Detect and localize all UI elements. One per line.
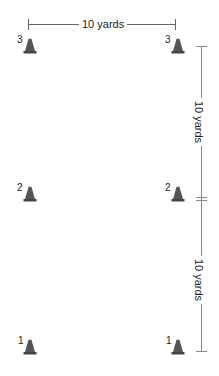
cone-icon [171, 186, 185, 202]
cone-icon [23, 38, 37, 54]
cone-icon [23, 339, 37, 355]
cone-icon [171, 38, 185, 54]
cone-number-label: 2 [17, 183, 23, 193]
cone-number-label: 2 [165, 183, 171, 193]
vertical-distance-label-lower: 10 yards [193, 256, 205, 304]
cone-icon [171, 339, 185, 355]
cone-drill-diagram: 10 yards 10 yards 10 yards 3 3 2 2 1 1 [0, 0, 219, 376]
vertical-measure-line [196, 46, 207, 352]
cone-number-label: 3 [165, 35, 171, 45]
horizontal-distance-label: 10 yards [79, 18, 127, 30]
vertical-distance-label-upper: 10 yards [193, 98, 205, 146]
cone-number-label: 3 [17, 35, 23, 45]
cone-icon [23, 186, 37, 202]
